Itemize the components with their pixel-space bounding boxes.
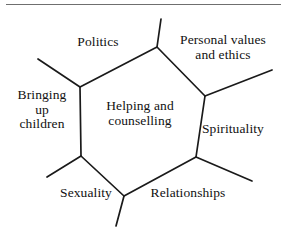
figure-root: Politics Personal values and ethics Brin…: [0, 0, 287, 241]
cell-label-relationships: Relationships: [134, 186, 242, 201]
spur-edge-upper-right: [205, 70, 272, 96]
cell-label-politics: Politics: [58, 35, 138, 50]
cell-label-sexuality: Sexuality: [48, 186, 124, 201]
cell-label-spirituality: Spirituality: [202, 122, 287, 137]
spur-edge-lower-left: [47, 156, 81, 177]
spur-edge-top: [157, 19, 161, 47]
spur-edge-upper-left: [38, 59, 80, 87]
spur-edge-lower-right: [196, 157, 252, 181]
cell-label-personal-values-and-ethics: Personal values and ethics: [162, 33, 284, 62]
center-label-helping-and-counselling: Helping and counselling: [90, 99, 190, 128]
cell-label-bringing-up-children: Bringing up children: [6, 88, 78, 132]
